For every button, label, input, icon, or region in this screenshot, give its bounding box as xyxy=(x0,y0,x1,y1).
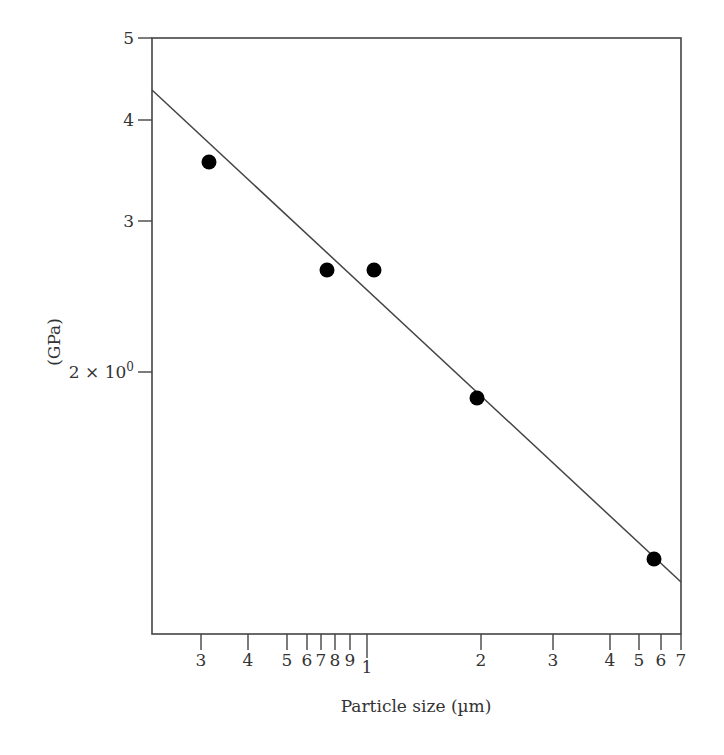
data-points xyxy=(202,155,662,567)
x-tick-label: 4 xyxy=(243,650,254,670)
data-point-marker xyxy=(470,391,485,406)
fit-line xyxy=(152,90,681,582)
chart: 34567891234567 5432 × 100 Particle size … xyxy=(0,0,724,755)
y-tick-label: 3 xyxy=(123,211,134,231)
y-axis-title: (GPa) xyxy=(44,318,64,366)
data-point-marker xyxy=(647,552,662,567)
x-tick-label: 6 xyxy=(302,650,313,670)
x-tick-label: 5 xyxy=(634,650,645,670)
data-point-marker xyxy=(320,263,335,278)
data-point-marker xyxy=(202,155,217,170)
x-tick-label: 4 xyxy=(605,650,616,670)
x-tick-label: 1 xyxy=(362,657,373,677)
x-tick-label: 6 xyxy=(656,650,667,670)
x-axis-title: Particle size (µm) xyxy=(341,696,492,716)
x-tick-label: 2 xyxy=(476,650,487,670)
x-tick-label: 8 xyxy=(330,650,341,670)
x-tick-label: 5 xyxy=(282,650,293,670)
y-axis-ticks: 5432 × 100 xyxy=(69,28,152,382)
y-tick-label: 5 xyxy=(123,28,134,48)
x-tick-label: 3 xyxy=(548,650,559,670)
x-axis-ticks: 34567891234567 xyxy=(196,634,687,677)
x-tick-label: 7 xyxy=(316,650,327,670)
x-tick-label: 9 xyxy=(345,650,356,670)
x-tick-label: 7 xyxy=(676,650,687,670)
trend-line xyxy=(152,90,681,582)
y-tick-label: 2 × 100 xyxy=(69,360,134,382)
data-point-marker xyxy=(367,263,382,278)
x-tick-label: 3 xyxy=(196,650,207,670)
y-tick-label: 4 xyxy=(123,110,134,130)
